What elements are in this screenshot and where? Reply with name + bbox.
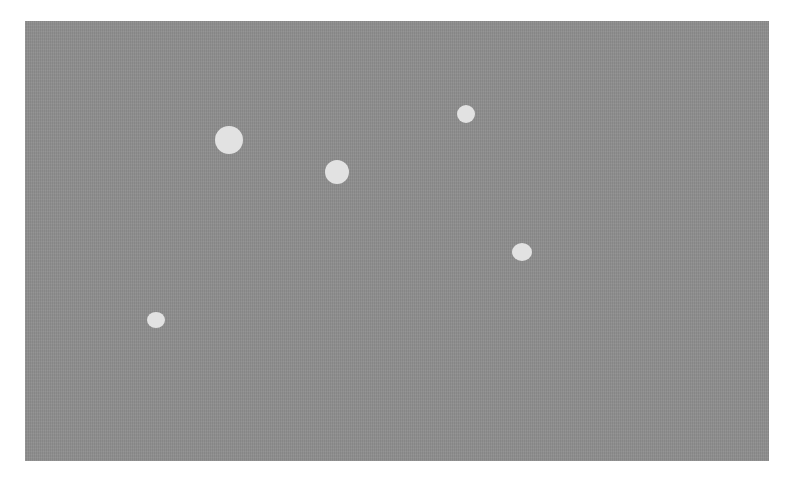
light-spot [325,160,349,184]
light-spot [215,126,243,154]
gray-panel [25,21,769,461]
light-spot [512,243,532,261]
light-spot [147,312,165,328]
light-spot [457,105,475,123]
